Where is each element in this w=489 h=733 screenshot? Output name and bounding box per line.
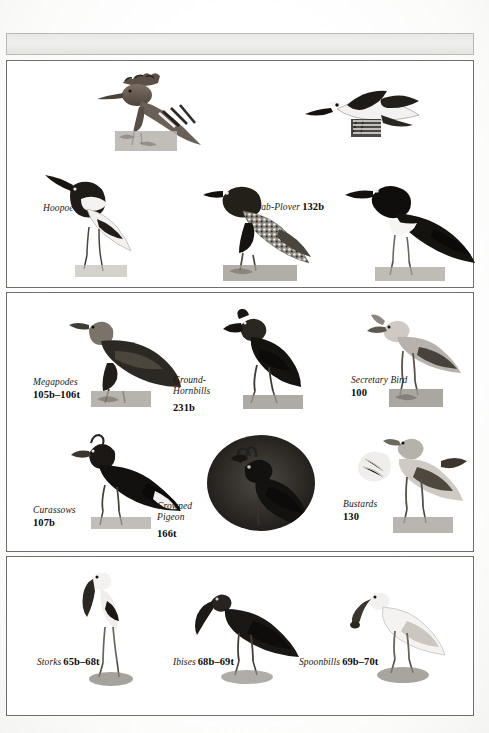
plate-panel-2: Megapodes 105b–106t	[6, 292, 474, 552]
caption-pages: 100	[351, 387, 407, 399]
caption-name-line2: Pigeon	[157, 512, 192, 523]
crowned-pigeon-photo	[199, 433, 323, 533]
caption-secretary-bird: Secretary Bird 100	[351, 375, 407, 400]
caption-pages: 231b	[173, 402, 195, 413]
caption-megapodes: Megapodes 105b–106t	[33, 377, 80, 402]
caption-pages: 65b–68t	[63, 656, 99, 667]
stork-photo	[67, 565, 155, 689]
oystercatcher-photo	[337, 169, 477, 281]
caption-pages: 69b–70t	[342, 656, 378, 667]
caption-pages: 68b–69t	[198, 656, 234, 667]
caption-name: Ibises	[173, 657, 196, 667]
caption-name: Secretary Bird	[351, 375, 407, 386]
caption-name: Bustards	[343, 499, 377, 510]
caption-name: Curassows	[33, 505, 76, 516]
caption-name-line1: Crowned	[157, 501, 192, 512]
plate-panel-1: Hoopoe228b	[6, 60, 474, 288]
plover-photo	[183, 173, 323, 281]
crab-plover-photo	[285, 79, 435, 151]
caption-name-line1: Ground-	[173, 375, 210, 386]
caption-name: Spoonbills	[299, 657, 340, 667]
caption-name: Megapodes	[33, 377, 80, 388]
scanned-page: Hoopoe228b	[0, 0, 489, 733]
caption-curassows: Curassows 107b	[33, 505, 76, 530]
plate-panel-3: Storks65b–68t I	[6, 556, 474, 716]
caption-name-line2: Hornbills	[173, 386, 210, 397]
caption-crowned-pigeon: Crowned Pigeon166t	[157, 501, 192, 542]
caption-ground-hornbills: Ground- Ground-HornbillsHornbills231b	[173, 375, 210, 416]
caption-spoonbills: Spoonbills69b–70t	[299, 651, 378, 670]
caption-ibises: Ibises68b–69t	[173, 651, 234, 670]
caption-pages: 105b–106t	[33, 389, 80, 401]
caption-bustards: Bustards 130	[343, 499, 377, 524]
caption-storks: Storks65b–68t	[37, 651, 100, 670]
caption-pages: 107b	[33, 517, 76, 529]
ibis-photo	[183, 585, 311, 685]
caption-name: Storks	[37, 657, 61, 667]
ground-hornbill-photo	[203, 309, 323, 409]
hoopoe-photo	[79, 73, 219, 151]
caption-pages: 130	[343, 511, 377, 523]
caption-pages: 166t	[157, 528, 177, 539]
header-band	[6, 33, 474, 55]
avocet-photo	[41, 169, 153, 277]
